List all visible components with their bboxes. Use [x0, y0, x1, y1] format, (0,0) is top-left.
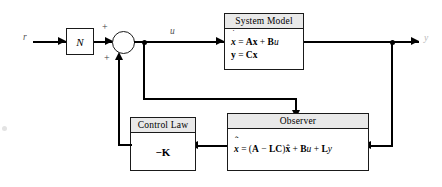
block-control-law-header: Control Law: [131, 118, 195, 133]
arrow-output-y: [411, 37, 419, 45]
arrow-feedback-into-summer: [115, 52, 123, 60]
equation-observer: xˆ̇ = (A − LC)x̂ + Bu + Ly: [234, 143, 362, 156]
block-observer-header: Observer: [228, 114, 368, 129]
wire-observer-to-control-law: [196, 145, 227, 147]
block-system-model[interactable]: System Model x˙ = Ax + Bu y = Cx: [224, 13, 304, 70]
wire-summer-to-system-model: [134, 41, 224, 43]
equation-state: x˙ = Ax + Bu: [231, 36, 297, 49]
equation-state-rhs: = Ax + Bu: [238, 37, 279, 47]
summing-junction-sign-top: +: [102, 22, 108, 32]
wire-system-model-to-output: [304, 41, 419, 43]
equation-observer-hatdot: ˆ̇: [235, 136, 238, 145]
wire-control-law-feedback-left: [118, 144, 132, 146]
block-diagram-canvas: r N + + u System Model x˙ = Ax + Bu y = …: [0, 0, 442, 187]
wire-control-law-feedback-up: [118, 60, 120, 146]
block-observer-body: xˆ̇ = (A − LC)x̂ + Bu + Ly: [228, 129, 368, 170]
block-control-law[interactable]: Control Law −K: [130, 117, 196, 171]
equation-output: y = Cx: [231, 49, 297, 62]
summing-junction-sign-bottom: +: [104, 53, 110, 63]
wire-y-feedback-down: [391, 41, 393, 146]
signal-label-control-u: u: [170, 26, 175, 36]
arrow-reference-to-gain: [58, 37, 66, 45]
block-control-law-body: −K: [131, 133, 195, 170]
equation-observer-xhat: x: [234, 144, 239, 154]
block-system-model-body: x˙ = Ax + Bu y = Cx: [225, 29, 303, 69]
equation-state-x: x: [231, 37, 236, 47]
summing-junction[interactable]: [112, 31, 135, 54]
arrow-u-to-system-model: [216, 37, 224, 45]
block-control-law-gain: −K: [156, 146, 171, 158]
wire-y-feedback-left: [369, 145, 393, 147]
block-gain-n-label: N: [76, 36, 83, 48]
block-system-model-header: System Model: [225, 14, 303, 29]
block-observer[interactable]: Observer xˆ̇ = (A − LC)x̂ + Bu + Ly: [227, 113, 369, 171]
signal-label-reference: r: [23, 32, 27, 42]
signal-label-output-y: y: [424, 33, 428, 43]
block-gain-n[interactable]: N: [66, 28, 94, 55]
equation-state-dot: ˙: [232, 29, 235, 38]
wire-u-branch-down: [143, 41, 145, 100]
equation-observer-rhs: = (A − LC)x̂ + Bu + Ly: [241, 144, 332, 154]
wire-u-branch-right: [143, 98, 297, 100]
scan-artifact: [2, 126, 7, 131]
